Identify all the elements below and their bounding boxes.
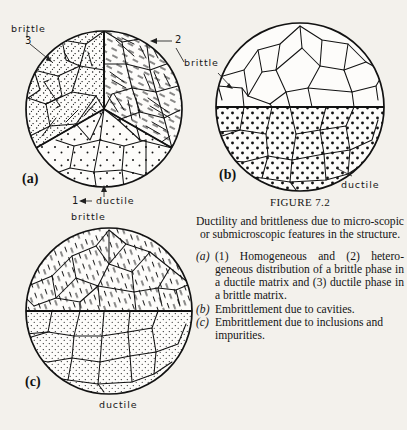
caption-item: (c) Embrittlement due to inclusions and … [196, 316, 404, 343]
panel-a-id: (a) [22, 172, 38, 186]
label-brittle-c: brittle [71, 212, 106, 222]
caption-item-text: Embrittlement due to inclusions and impu… [215, 316, 404, 343]
label-ductile-c: ductile [99, 400, 137, 410]
label-number-1: 1 [72, 196, 78, 206]
figure-title: FIGURE 7.2 [196, 196, 404, 208]
label-number-3: 3 [25, 36, 31, 46]
figure-title-text: FIGURE 7.2 [270, 196, 330, 208]
figure-caption: FIGURE 7.2 Ductility and brittleness due… [196, 196, 404, 343]
label-number-2: 2 [175, 35, 181, 45]
caption-item-text: Embrittlement due to cavities. [215, 303, 404, 316]
panel-c-id: (c) [25, 375, 41, 389]
label-brittle-a-topleft: brittle [11, 24, 46, 34]
caption-item-key: (b) [196, 303, 215, 316]
caption-items: (a) (1) Homogeneous and (2) hetero-geneo… [196, 250, 404, 343]
panel-a-diagram [20, 25, 195, 204]
panel-c-diagram [24, 226, 196, 398]
panel-a-leader-2 [150, 38, 172, 44]
figure-page: brittle 3 2 brittle 1 ductile (a) (b) du… [0, 0, 407, 430]
label-brittle-b: brittle [184, 58, 219, 68]
caption-item: (a) (1) Homogeneous and (2) hetero-geneo… [196, 250, 404, 303]
label-ductile-a: ductile [96, 196, 134, 206]
label-ductile-b: ductile [341, 180, 379, 190]
caption-item-text: (1) Homogeneous and (2) hetero-geneous d… [215, 250, 404, 303]
caption-item: (b) Embrittlement due to cavities. [196, 303, 404, 316]
caption-item-key: (c) [196, 316, 215, 343]
panel-b-diagram [212, 23, 392, 200]
label-brittle-leader-a [176, 48, 184, 62]
panel-b-id: (b) [219, 168, 236, 182]
caption-lead: Ductility and brittleness due to micro-s… [196, 215, 404, 242]
caption-item-key: (a) [196, 250, 215, 303]
